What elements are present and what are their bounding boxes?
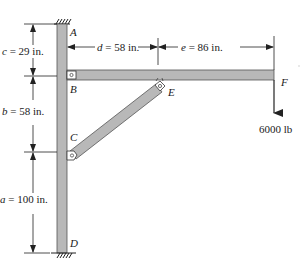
fixed-support-top <box>54 19 71 24</box>
strut-CE <box>70 84 162 159</box>
label-A: A <box>69 26 77 38</box>
fixed-support-bottom <box>51 253 76 258</box>
dimension-a: a = 100 in. <box>0 193 48 205</box>
beam-BF <box>67 70 274 80</box>
label-B: B <box>70 83 77 95</box>
pin-B-icon <box>67 71 76 79</box>
load-label: 6000 lb <box>259 123 293 135</box>
dimension-left <box>24 24 57 253</box>
dimension-b: b = 58 in. <box>2 105 45 117</box>
frame-diagram: A B C D E F c = 29 in. b = 58 in. a = 10… <box>0 0 306 265</box>
artifact-dot <box>298 65 300 67</box>
label-C: C <box>70 131 78 143</box>
label-F: F <box>280 76 288 88</box>
dimension-e: e = 86 in. <box>181 41 223 53</box>
dimension-d: d = 58 in. <box>97 41 140 53</box>
dimension-c: c = 29 in. <box>2 45 44 57</box>
column-AD <box>57 24 67 253</box>
label-E: E <box>167 86 175 98</box>
label-D: D <box>69 237 78 249</box>
